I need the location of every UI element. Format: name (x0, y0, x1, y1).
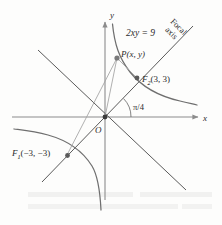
x-axis-label: x (202, 113, 207, 123)
point-origin (103, 115, 108, 120)
focal-radius-f2-to-p (117, 58, 137, 78)
point-focus-2 (135, 76, 140, 81)
focus-1-label-coords: (−3, −3) (21, 148, 51, 158)
figure-canvas: y x O 2xy = 9 Focal axis π/4 P(x, y) F 2… (0, 0, 222, 225)
focus-2-label: F 2 (3, 3) (141, 74, 170, 86)
point-focus-1 (65, 153, 70, 158)
focal-radii-group (67, 58, 137, 155)
focal-radius-f1-to-p (67, 58, 117, 155)
angle-label-pi-over-4: π/4 (133, 102, 145, 112)
equation-label: 2xy = 9 (126, 28, 155, 38)
conjugate-axis-line (38, 50, 186, 190)
bleed-smudge-3 (28, 204, 178, 209)
angle-arc-pi-over-4 (124, 99, 131, 117)
hyperbola-branch-lower-left (14, 129, 101, 210)
y-axis-label: y (109, 10, 114, 20)
point-p-label: P(x, y) (120, 49, 145, 59)
bleed-smudge-1 (28, 192, 133, 197)
bleed-smudge-2 (140, 192, 212, 197)
coordinate-axes (12, 22, 198, 200)
plotted-points-group (65, 55, 139, 158)
focus-1-label: F 1 (−3, −3) (11, 148, 50, 160)
focus-2-label-coords: (3, 3) (151, 74, 171, 84)
point-p (114, 55, 119, 60)
page-bleed-through (28, 192, 212, 213)
origin-label: O (95, 125, 102, 135)
bleed-smudge-4 (182, 204, 212, 209)
focal-axis-label: Focal axis (162, 16, 190, 44)
hyperbola-figure: y x O 2xy = 9 Focal axis π/4 P(x, y) F 2… (0, 0, 222, 225)
segment-origin-to-p (105, 58, 117, 117)
